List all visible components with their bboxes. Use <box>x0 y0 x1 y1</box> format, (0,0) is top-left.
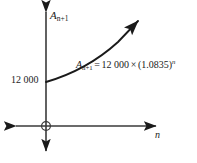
equation-times: × <box>131 59 137 70</box>
exponential-curve <box>46 21 138 82</box>
exponential-growth-diagram: An+1 n 12 000 An+1=12 000×(1.0835)n <box>0 0 197 163</box>
equation-base-value: 1.0835 <box>141 59 169 70</box>
equation-coefficient: 12 000 <box>102 59 130 70</box>
y-axis-label-subscript: n+1 <box>57 14 69 23</box>
x-axis-label: n <box>155 130 160 140</box>
equation-exponent: n <box>172 58 175 65</box>
y-axis-label: An+1 <box>50 10 68 21</box>
equation-equals: = <box>94 59 100 70</box>
equation-lhs-subscript: n+1 <box>82 64 93 71</box>
equation-annotation: An+1=12 000×(1.0835)n <box>76 60 176 70</box>
y-axis-label-base: A <box>50 9 57 21</box>
y-intercept-label: 12 000 <box>11 75 39 85</box>
